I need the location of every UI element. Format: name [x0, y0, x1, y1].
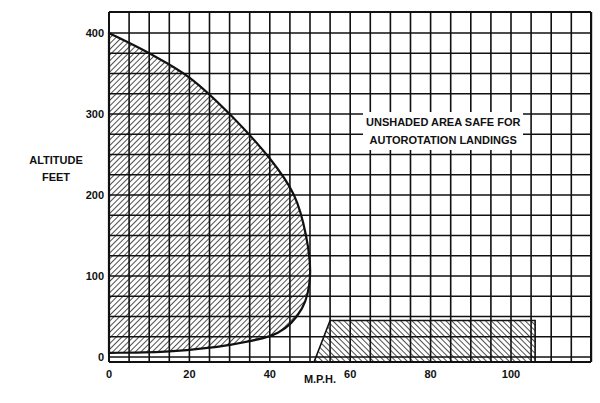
y-axis-label-line1: ALTITUDE	[16, 152, 96, 169]
y-axis-label-line2: FEET	[16, 169, 96, 186]
y-tick-label: 0	[98, 351, 104, 363]
x-tick-label: 80	[424, 368, 436, 380]
x-axis-label: M.P.H.	[270, 373, 370, 385]
y-tick-label: 100	[86, 270, 104, 282]
shaded-region-2	[314, 321, 535, 362]
y-axis-ticks: 0100200300400	[86, 27, 104, 363]
y-tick-label: 200	[86, 189, 104, 201]
x-tick-label: 0	[106, 368, 112, 380]
y-tick-label: 300	[86, 108, 104, 120]
height-velocity-chart: 020406080100 0100200300400	[0, 0, 600, 403]
annotation-line2: AUTOROTATION LANDINGS	[366, 131, 520, 149]
x-tick-label: 100	[502, 368, 520, 380]
annotation-line1: UNSHADED AREA SAFE FOR	[366, 113, 520, 131]
y-tick-label: 400	[86, 27, 104, 39]
x-tick-label: 20	[183, 368, 195, 380]
safe-area-annotation: UNSHADED AREA SAFE FOR AUTOROTATION LAND…	[363, 112, 523, 150]
y-axis-label: ALTITUDE FEET	[16, 152, 96, 186]
